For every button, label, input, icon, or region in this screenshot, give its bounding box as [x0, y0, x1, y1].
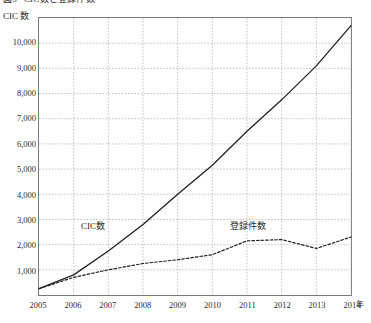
- y-axis-tick-label: 3,000: [2, 215, 36, 224]
- y-axis-tick-label: 4,000: [2, 190, 36, 199]
- x-axis-tick-label: 2014: [344, 300, 361, 310]
- y-axis-tick-label: 8,000: [2, 89, 36, 98]
- x-axis-tick-label: 2011: [239, 300, 256, 310]
- figure-number: 図5: [3, 0, 17, 4]
- series-line-registrations: [39, 237, 351, 289]
- data-lines: [39, 18, 351, 295]
- y-axis-tick-label: 6,000: [2, 139, 36, 148]
- series-label-registrations: 登録件数: [230, 221, 266, 231]
- y-axis-tick-label: 10,000: [2, 38, 36, 47]
- x-axis-tick-label: 2013: [309, 300, 326, 310]
- y-axis-tick-labels: 10,0009,0008,0007,0006,0005,0004,0003,00…: [0, 17, 36, 296]
- y-axis-tick-label: 7,000: [2, 114, 36, 123]
- y-axis-tick-label: 1,000: [2, 266, 36, 275]
- x-axis-tick-label: 2012: [274, 300, 291, 310]
- series-line-cic: [39, 26, 351, 289]
- y-axis-tick-label: 5,000: [2, 165, 36, 174]
- y-axis-tick-label: 2,000: [2, 241, 36, 250]
- y-axis-tick-label: 9,000: [2, 63, 36, 72]
- series-label-cic: CIC数: [81, 221, 105, 231]
- x-axis-tick-label: 2007: [99, 300, 116, 310]
- figure-container: 図5CIC数と登録件数 CIC 数 年 10,0009,0008,0007,00…: [0, 0, 371, 323]
- x-axis-tick-label: 2009: [169, 300, 186, 310]
- figure-title: 図5CIC数と登録件数: [3, 0, 95, 5]
- plot-area: CIC数登録件数: [38, 17, 352, 296]
- x-axis-tick-labels: 2005200620072008200920102011201220132014: [38, 300, 352, 312]
- x-axis-tick-label: 2010: [204, 300, 221, 310]
- figure-title-text: CIC数と登録件数: [24, 0, 95, 4]
- x-axis-tick-label: 2006: [64, 300, 81, 310]
- x-axis-tick-label: 2008: [134, 300, 151, 310]
- x-axis-tick-label: 2005: [30, 300, 47, 310]
